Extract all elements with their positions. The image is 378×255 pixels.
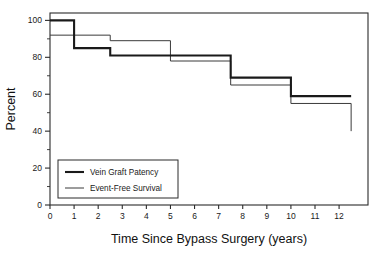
y-tick-label: 80 (33, 52, 43, 62)
x-tick-label: 3 (120, 211, 125, 221)
x-tick-label: 6 (192, 211, 197, 221)
x-tick-label: 2 (96, 211, 101, 221)
x-tick-label: 1 (72, 211, 77, 221)
series-line-vein-graft-patency (50, 20, 351, 96)
legend: Vein Graft Patency Event-Free Survival (58, 160, 178, 198)
legend-label-event-free-survival: Event-Free Survival (90, 184, 162, 193)
x-tick-label: 11 (311, 211, 320, 221)
x-tick-label: 10 (286, 211, 296, 221)
legend-label-vein-graft-patency: Vein Graft Patency (90, 168, 159, 177)
y-tick-label: 100 (28, 15, 42, 25)
y-axis-title: Percent (4, 87, 18, 131)
x-tick-label: 7 (216, 211, 221, 221)
series-line-event-free-survival (50, 35, 351, 131)
x-tick-label: 9 (264, 211, 269, 221)
x-tick-label: 0 (48, 211, 53, 221)
x-tick-label: 4 (144, 211, 149, 221)
y-tick-label: 0 (37, 200, 42, 210)
y-tick-label: 40 (33, 126, 43, 136)
x-tick-label: 5 (168, 211, 173, 221)
x-tick-label: 12 (334, 211, 344, 221)
y-tick-label: 20 (33, 163, 43, 173)
y-tick-label: 60 (33, 89, 43, 99)
x-tick-label: 8 (240, 211, 245, 221)
kaplan-meier-plot: 0123456789101112020406080100 Time Since … (0, 0, 378, 255)
x-axis-title: Time Since Bypass Surgery (years) (111, 232, 307, 246)
chart-figure: 0123456789101112020406080100 Time Since … (0, 0, 378, 255)
